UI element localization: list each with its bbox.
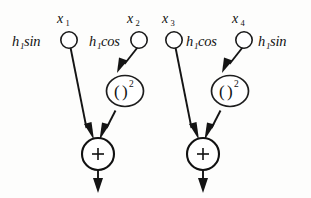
input-node-x2[interactable] (131, 32, 147, 48)
square-open-paren-right: ( (219, 82, 225, 101)
weight-label-x1: h 1 sin (12, 33, 40, 51)
weight-fn-x3: cos (198, 33, 217, 49)
input-label-x2: x (126, 11, 134, 26)
input-node-x3[interactable] (166, 32, 182, 48)
edge-x1-to-sum-left (71, 48, 95, 141)
edge-square-right-to-sum-right (205, 111, 221, 141)
square-close-paren-right: ) (227, 82, 233, 101)
input-node-x4[interactable] (236, 32, 252, 48)
square-open-paren-left: ( (114, 82, 120, 101)
square-exponent-right: 2 (234, 79, 239, 89)
square-exponent-left: 2 (129, 79, 134, 89)
input-subscript-x1: 1 (66, 18, 70, 28)
square-close-paren-left: ) (122, 82, 128, 101)
input-subscript-x3: 3 (171, 18, 175, 28)
weight-label-x4: h 1 sin (258, 33, 286, 51)
weight-h-x1: h (12, 33, 19, 49)
input-subscript-x4: 4 (241, 18, 246, 28)
edge-sum-left-to-output (93, 170, 103, 193)
edge-sum-right-to-output (198, 170, 208, 193)
input-label-x3: x (161, 11, 169, 26)
diagram-canvas: x 1 x 2 x 3 x 4 h 1 sin h 1 cos h 1 cos (0, 0, 311, 198)
weight-fn-x4: sin (270, 33, 286, 49)
edge-x2-to-square-left (117, 48, 138, 74)
edge-x3-to-sum-right (176, 48, 200, 141)
flow-graph: x 1 x 2 x 3 x 4 h 1 sin h 1 cos h 1 cos (0, 0, 311, 198)
weight-h-x2: h (89, 33, 96, 49)
input-label-x4: x (231, 11, 239, 26)
weight-fn-x1: sin (24, 33, 40, 49)
weight-fn-x2: cos (101, 33, 120, 49)
input-label-x1: x (56, 11, 64, 26)
weight-h-x3: h (186, 33, 193, 49)
weight-label-x3: h 1 cos (186, 33, 217, 51)
weight-label-x2: h 1 cos (89, 33, 120, 51)
input-subscript-x2: 2 (136, 18, 140, 28)
edge-x4-to-square-right (222, 48, 243, 74)
input-node-x1[interactable] (61, 32, 77, 48)
edge-square-left-to-sum-left (100, 111, 116, 141)
weight-h-x4: h (258, 33, 265, 49)
